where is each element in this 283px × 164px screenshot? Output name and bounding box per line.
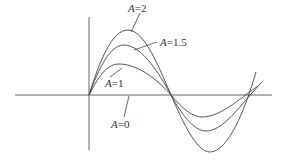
leader-a-1 (110, 68, 122, 77)
label-a-0: A=0 (110, 118, 130, 130)
curve-a-2 (89, 30, 256, 152)
label-a-1-5: A=1.5 (159, 36, 187, 48)
leader-a-0 (124, 96, 129, 117)
label-a-1: A=1 (104, 77, 123, 89)
curve-family-diagram: A=2 A=1.5 A=1 A=0 (0, 0, 283, 164)
label-a-2: A=2 (127, 2, 146, 14)
leader-a-2 (131, 13, 140, 32)
curve-a-1 (89, 64, 258, 117)
